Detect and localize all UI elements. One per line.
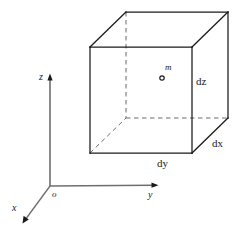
z-axis-arrowhead: [47, 74, 52, 81]
cube-visible-edges: [90, 12, 228, 153]
x-axis-label: x: [12, 203, 16, 213]
y-axis-label: y: [148, 190, 152, 200]
x-axis: [23, 186, 51, 224]
cube-hidden-edges: [90, 12, 228, 153]
z-axis: [47, 74, 52, 187]
y-axis: [50, 183, 159, 188]
origin-label: o: [52, 190, 57, 199]
x-axis-line: [27, 186, 51, 218]
diagram-svg: [0, 0, 241, 230]
y-axis-arrowhead: [152, 183, 159, 188]
mass-label: m: [165, 63, 172, 72]
y-axis-line: [50, 185, 153, 186]
dx-label: dx: [212, 138, 223, 149]
cube-edge-top-left-depth: [90, 12, 126, 47]
mass-point-marker: [160, 76, 164, 80]
dz-label: dz: [196, 76, 206, 87]
z-axis-label: z: [39, 72, 43, 82]
cube-edge-top-right-depth: [192, 12, 228, 47]
cube-edge-bottom-left-depth: [90, 118, 126, 153]
figure-canvas: z y x o m dz dx dy: [0, 0, 241, 230]
dy-label: dy: [157, 158, 168, 169]
